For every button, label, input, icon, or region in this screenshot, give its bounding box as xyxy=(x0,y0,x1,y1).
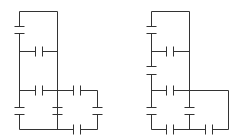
capacitor-icon xyxy=(167,125,174,135)
capacitor-icon xyxy=(74,125,81,135)
capacitor-icon xyxy=(167,47,174,57)
capacitor-icon xyxy=(147,27,157,34)
capacitor-icon xyxy=(74,86,81,96)
capacitor-icon xyxy=(93,108,103,115)
capacitor-icon xyxy=(15,108,25,115)
circuit-diagram xyxy=(0,0,241,138)
capacitor-icon xyxy=(147,67,157,75)
right-circuit xyxy=(147,12,229,135)
capacitor-icon xyxy=(185,108,195,115)
capacitor-icon xyxy=(206,125,213,135)
capacitor-icon xyxy=(167,86,174,96)
capacitor-icon xyxy=(147,108,157,115)
capacitor-icon xyxy=(36,47,43,57)
left-circuit xyxy=(15,12,103,135)
capacitor-icon xyxy=(15,27,25,34)
capacitor-icon xyxy=(36,86,43,96)
